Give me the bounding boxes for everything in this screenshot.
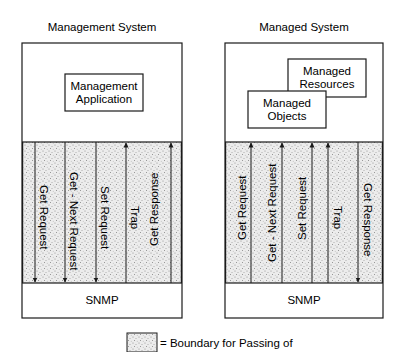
managed-resources-label-2: Resources: [300, 78, 355, 90]
management-system-title: Management System: [48, 21, 157, 33]
management-application-label-2: Application: [76, 93, 132, 105]
legend: = Boundary for Passing of: [127, 333, 293, 352]
management-application-box: Management Application: [65, 74, 143, 111]
managed-trap-label: Trap: [332, 206, 344, 229]
managed-objects-label-2: Objects: [268, 110, 307, 122]
management-get-response-label: Get Response: [148, 172, 160, 246]
managed-get-next-request-label: Get - Next Request: [266, 163, 278, 262]
legend-stipple-swatch: [127, 333, 157, 352]
managed-resources-label-1: Managed: [303, 65, 351, 77]
management-get-request-label: Get Request: [38, 185, 50, 250]
managed-snmp-label: SNMP: [287, 294, 321, 306]
legend-text: = Boundary for Passing of: [160, 337, 293, 349]
management-system: Management System Management Application…: [22, 21, 182, 318]
managed-objects-box: Managed Objects: [248, 91, 326, 128]
managed-get-request-label: Get Request: [236, 175, 248, 240]
snmp-diagram: Management System Management Application…: [0, 0, 401, 352]
managed-system: Managed System Managed Resources Managed…: [225, 21, 383, 318]
managed-get-response-label: Get Response: [362, 183, 374, 257]
management-set-request-label: Set Request: [99, 186, 111, 250]
managed-system-title: Managed System: [259, 21, 349, 33]
management-get-next-request-label: Get - Next Request: [68, 172, 80, 271]
management-trap-label: Trap: [129, 206, 141, 229]
managed-objects-label-1: Managed: [263, 97, 311, 109]
management-snmp-label: SNMP: [85, 294, 119, 306]
managed-set-request-label: Set Request: [296, 176, 308, 240]
management-application-label-1: Management: [70, 80, 138, 92]
